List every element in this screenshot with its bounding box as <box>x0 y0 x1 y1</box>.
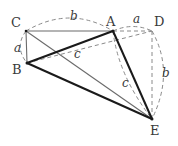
segment-B-A <box>27 31 113 63</box>
edge-label-c-right: c <box>122 77 129 89</box>
vertex-label-B: B <box>12 63 22 76</box>
segment-B-D-dashed <box>27 31 152 63</box>
vertex-label-A: A <box>106 15 115 28</box>
arc-A-D-dashed-icon <box>113 27 152 32</box>
edge-label-b-right: b <box>162 67 170 79</box>
dashed-arc-group <box>20 18 163 119</box>
vertex-dot-A <box>112 30 115 33</box>
vertex-label-E: E <box>150 124 160 137</box>
vertex-label-C: C <box>11 16 21 29</box>
geometry-figure: C A D B E a b a c c b <box>0 0 178 146</box>
edge-label-a-left: a <box>14 42 21 54</box>
vertex-label-D: D <box>154 15 164 28</box>
vertex-dot-B <box>26 62 29 65</box>
edge-label-b-top: b <box>70 10 78 22</box>
segment-C-B <box>26 31 27 63</box>
edge-label-a-top: a <box>133 13 140 25</box>
vertex-dot-C <box>25 30 28 33</box>
vertex-dot-E <box>151 118 154 121</box>
edge-label-c-mid: c <box>74 48 81 60</box>
